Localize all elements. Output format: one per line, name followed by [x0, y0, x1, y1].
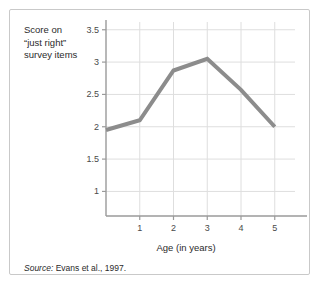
- y-tick-label: 1: [73, 186, 99, 196]
- x-tick-label: 2: [164, 223, 184, 233]
- source-citation: Evans et al., 1997.: [53, 263, 126, 273]
- line-chart: 11.522.533.5 12345: [10, 10, 311, 276]
- y-tick-label: 2: [73, 122, 99, 132]
- vertical-gridlines: [140, 22, 275, 216]
- x-tick-label: 1: [130, 223, 150, 233]
- x-tick-label: 4: [231, 223, 251, 233]
- source-label: Source:: [24, 263, 53, 273]
- x-axis-title: Age (in years): [106, 242, 266, 253]
- chart-axes: [106, 20, 307, 216]
- y-tick-label: 2.5: [73, 89, 99, 99]
- y-tick-label: 3.5: [73, 25, 99, 35]
- y-tick-label: 3: [73, 57, 99, 67]
- figure-panel: Score on “just right” survey items 11.52…: [9, 9, 310, 275]
- y-tick-label: 1.5: [73, 154, 99, 164]
- horizontal-gridlines: [106, 30, 295, 192]
- chart-plot-svg: [10, 10, 311, 276]
- x-tick-label: 5: [265, 223, 285, 233]
- x-tick-label: 3: [197, 223, 217, 233]
- source-note: Source: Evans et al., 1997.: [24, 263, 126, 273]
